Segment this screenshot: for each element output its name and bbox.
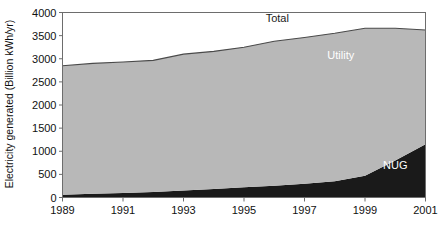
area-series-group bbox=[63, 28, 426, 197]
y-tick-label: 1500 bbox=[32, 122, 56, 134]
y-tick-label: 2500 bbox=[32, 76, 56, 88]
y-tick-label: 3000 bbox=[32, 53, 56, 65]
y-tick-label: 4000 bbox=[32, 7, 56, 19]
x-axis-ticks: 1989199119931995199719992001 bbox=[50, 198, 437, 216]
y-tick-label: 2000 bbox=[32, 99, 56, 111]
y-axis-ticks: 05001000150020002500300035004000 bbox=[32, 7, 62, 204]
x-tick-label: 1993 bbox=[171, 204, 195, 216]
y-tick-label: 500 bbox=[38, 168, 56, 180]
x-tick-label: 2001 bbox=[413, 204, 437, 216]
x-tick-label: 1997 bbox=[292, 204, 316, 216]
y-axis-title: Electricity generated (Billion kWh/yr) bbox=[3, 20, 15, 189]
x-tick-label: 1995 bbox=[232, 204, 256, 216]
x-tick-label: 1989 bbox=[50, 204, 74, 216]
series-label-nug: NUG bbox=[383, 159, 407, 171]
series-label-total: Total bbox=[266, 12, 289, 24]
series-label-utility: Utility bbox=[327, 49, 354, 61]
stacked-area-chart: 05001000150020002500300035004000 1989199… bbox=[0, 0, 439, 231]
area-series-utility bbox=[63, 28, 426, 195]
y-tick-label: 1000 bbox=[32, 145, 56, 157]
x-tick-label: 1991 bbox=[111, 204, 135, 216]
chart-figure: 05001000150020002500300035004000 1989199… bbox=[0, 0, 439, 231]
x-tick-label: 1999 bbox=[353, 204, 377, 216]
y-tick-label: 3500 bbox=[32, 30, 56, 42]
y-tick-label: 0 bbox=[50, 192, 56, 204]
